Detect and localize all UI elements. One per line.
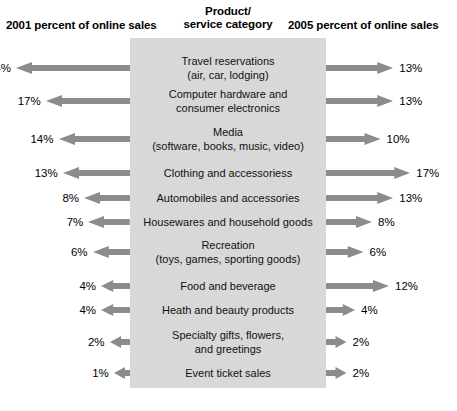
- left-arrow-icon: [63, 167, 130, 180]
- category-label-line: consumer electronics: [176, 101, 280, 113]
- left-arrow-icon: [114, 367, 130, 380]
- category-label-line: and greetings: [195, 342, 262, 354]
- right-percent-value: 10%: [387, 133, 410, 145]
- left-percent-value: 6%: [71, 246, 88, 258]
- left-percent-value: 17%: [18, 95, 41, 107]
- category-label-line: Event ticket sales: [185, 367, 271, 379]
- category-label-line: Food and beverage: [180, 280, 275, 292]
- right-arrow-icon: [326, 133, 381, 146]
- left-arrow-icon: [101, 304, 130, 317]
- category-label: Recreation(toys, games, sporting goods): [130, 239, 326, 266]
- category-label: Specialty gifts, flowers,and greetings: [130, 329, 326, 356]
- right-arrow-icon: [326, 192, 393, 205]
- left-arrow-icon: [93, 246, 131, 259]
- category-label-line: (software, books, music, video): [152, 139, 304, 151]
- right-percent-value: 4%: [361, 304, 378, 316]
- left-percent-value: 24%: [0, 62, 11, 74]
- category-label-line: Heath and beauty products: [162, 304, 294, 316]
- left-percent-value: 13%: [35, 167, 58, 179]
- left-arrow-icon: [46, 95, 130, 108]
- category-label-line: Specialty gifts, flowers,: [172, 329, 284, 341]
- right-arrow-icon: [326, 367, 347, 380]
- right-percent-value: 2%: [353, 367, 370, 379]
- category-label-line: Housewares and household goods: [143, 216, 312, 228]
- category-label: Heath and beauty products: [130, 304, 326, 317]
- category-label: Travel reservations(air, car, lodging): [130, 55, 326, 82]
- left-arrow-icon: [84, 192, 130, 205]
- category-label: Clothing and accessoriess: [130, 167, 326, 180]
- category-label-line: Automobiles and accessories: [156, 192, 299, 204]
- right-arrow-icon: [326, 280, 389, 293]
- category-label-line: Computer hardware and: [169, 88, 288, 100]
- right-percent-value: 6%: [370, 246, 387, 258]
- right-percent-value: 13%: [399, 192, 422, 204]
- left-percent-value: 8%: [62, 192, 79, 204]
- right-arrow-icon: [326, 304, 355, 317]
- right-arrow-icon: [326, 336, 347, 349]
- right-arrow-icon: [326, 95, 393, 108]
- right-percent-value: 17%: [416, 167, 439, 179]
- category-label-line: Recreation: [201, 239, 254, 251]
- category-label: Event ticket sales: [130, 367, 326, 380]
- left-percent-value: 14%: [30, 133, 53, 145]
- left-arrow-icon: [110, 336, 131, 349]
- category-label: Housewares and household goods: [130, 216, 326, 229]
- right-arrow-icon: [326, 167, 410, 180]
- right-percent-value: 13%: [399, 62, 422, 74]
- category-label: Automobiles and accessories: [130, 192, 326, 205]
- category-label: Computer hardware andconsumer electronic…: [130, 88, 326, 115]
- category-label: Food and beverage: [130, 280, 326, 293]
- category-label-line: (air, car, lodging): [187, 68, 268, 80]
- left-percent-value: 7%: [67, 216, 84, 228]
- right-arrow-icon: [326, 216, 372, 229]
- right-arrow-icon: [326, 246, 364, 259]
- category-label: Media(software, books, music, video): [130, 126, 326, 153]
- right-percent-value: 8%: [378, 216, 395, 228]
- right-arrow-icon: [326, 62, 393, 75]
- right-percent-value: 2%: [353, 336, 370, 348]
- left-percent-value: 2%: [88, 336, 105, 348]
- category-label-line: Travel reservations: [181, 55, 274, 67]
- diagram-rows: Travel reservations(air, car, lodging)24…: [0, 0, 457, 411]
- left-percent-value: 4%: [79, 280, 96, 292]
- left-arrow-icon: [16, 62, 130, 75]
- right-percent-value: 13%: [399, 95, 422, 107]
- left-arrow-icon: [59, 133, 131, 146]
- category-label-line: Media: [213, 126, 243, 138]
- left-percent-value: 1%: [92, 367, 109, 379]
- category-label-line: Clothing and accessoriess: [164, 167, 292, 179]
- left-arrow-icon: [101, 280, 130, 293]
- right-percent-value: 12%: [395, 280, 418, 292]
- left-arrow-icon: [88, 216, 130, 229]
- category-label-line: (toys, games, sporting goods): [156, 252, 301, 264]
- left-percent-value: 4%: [79, 304, 96, 316]
